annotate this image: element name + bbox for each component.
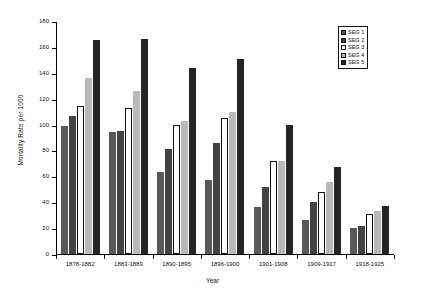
- bar: [117, 131, 124, 254]
- bar: [318, 192, 325, 254]
- y-tick-label: 40: [42, 198, 49, 207]
- bar: [77, 106, 84, 254]
- bar: [350, 228, 357, 254]
- y-tick-label: 100: [39, 121, 49, 130]
- legend-item-label: SEG 4: [348, 52, 364, 59]
- bar: [157, 172, 164, 254]
- bar: [181, 121, 188, 254]
- legend-item[interactable]: SEG 3: [341, 44, 364, 51]
- x-tick-label: 1918-1925: [346, 260, 394, 269]
- bar: [334, 167, 341, 254]
- bar: [93, 40, 100, 254]
- legend-swatch-icon: [341, 45, 346, 50]
- bar: [125, 108, 132, 254]
- legend-item[interactable]: SEG 1: [341, 29, 364, 36]
- bar-group: [56, 22, 104, 254]
- bar: [61, 126, 68, 254]
- bar: [141, 39, 148, 254]
- bar-group: [249, 22, 297, 254]
- bar: [189, 68, 196, 254]
- bar: [221, 118, 228, 254]
- bar: [133, 91, 140, 254]
- x-tick: [394, 255, 395, 259]
- y-tick-label: 60: [42, 172, 49, 181]
- x-tick: [297, 255, 298, 259]
- bar: [302, 220, 309, 254]
- y-tick-label: 140: [39, 69, 49, 78]
- x-tick: [56, 255, 57, 259]
- bar-chart: Mortality Rate per 1000 0204060801001201…: [0, 0, 425, 303]
- bar: [374, 211, 381, 254]
- legend-item[interactable]: SEG 4: [341, 52, 364, 59]
- x-tick-label: 1883-1889: [104, 260, 152, 269]
- bar: [85, 78, 92, 254]
- legend-item[interactable]: SEG 5: [341, 59, 364, 66]
- x-axis-line: [56, 254, 394, 255]
- x-tick-label: 1909-1917: [297, 260, 345, 269]
- x-tick-label: 1896-1900: [201, 260, 249, 269]
- y-tick-label: 20: [42, 224, 49, 233]
- bar: [310, 202, 317, 254]
- x-tick-label: 1901-1908: [249, 260, 297, 269]
- legend: SEG 1SEG 2SEG 3SEG 4SEG 5: [338, 26, 368, 69]
- x-tick: [346, 255, 347, 259]
- legend-item-label: SEG 5: [348, 59, 364, 66]
- x-tick: [249, 255, 250, 259]
- bar-group: [104, 22, 152, 254]
- bar: [254, 207, 261, 254]
- bar: [262, 187, 269, 254]
- bar: [213, 143, 220, 254]
- x-tick-label: 1878-1882: [56, 260, 104, 269]
- bar: [165, 149, 172, 254]
- legend-swatch-icon: [341, 53, 346, 58]
- y-tick-label: 80: [42, 146, 49, 155]
- bar: [237, 59, 244, 254]
- legend-swatch-icon: [341, 30, 346, 35]
- bar-group: [201, 22, 249, 254]
- bar: [229, 112, 236, 254]
- bar: [205, 180, 212, 254]
- bar: [270, 161, 277, 254]
- legend-item-label: SEG 2: [348, 37, 364, 44]
- bar: [382, 206, 389, 254]
- x-axis-title: Year: [0, 276, 425, 286]
- y-tick-label: 180: [39, 17, 49, 26]
- legend-swatch-icon: [341, 38, 346, 43]
- bar: [358, 226, 365, 254]
- y-tick-label: 120: [39, 95, 49, 104]
- y-axis-title: Mortality Rate per 1000: [14, 30, 28, 230]
- bar: [326, 182, 333, 254]
- bar: [69, 116, 76, 255]
- bar: [173, 125, 180, 254]
- bar: [109, 132, 116, 254]
- x-tick: [201, 255, 202, 259]
- bar: [366, 214, 373, 254]
- legend-item-label: SEG 3: [348, 44, 364, 51]
- x-tick: [104, 255, 105, 259]
- y-tick-label: 0: [46, 250, 49, 259]
- y-tick-label: 160: [39, 43, 49, 52]
- x-tick: [153, 255, 154, 259]
- x-tick-label: 1890-1895: [153, 260, 201, 269]
- bar: [286, 125, 293, 254]
- bar: [278, 161, 285, 254]
- legend-item[interactable]: SEG 2: [341, 37, 364, 44]
- legend-swatch-icon: [341, 60, 346, 65]
- legend-item-label: SEG 1: [348, 29, 364, 36]
- bar-group: [153, 22, 201, 254]
